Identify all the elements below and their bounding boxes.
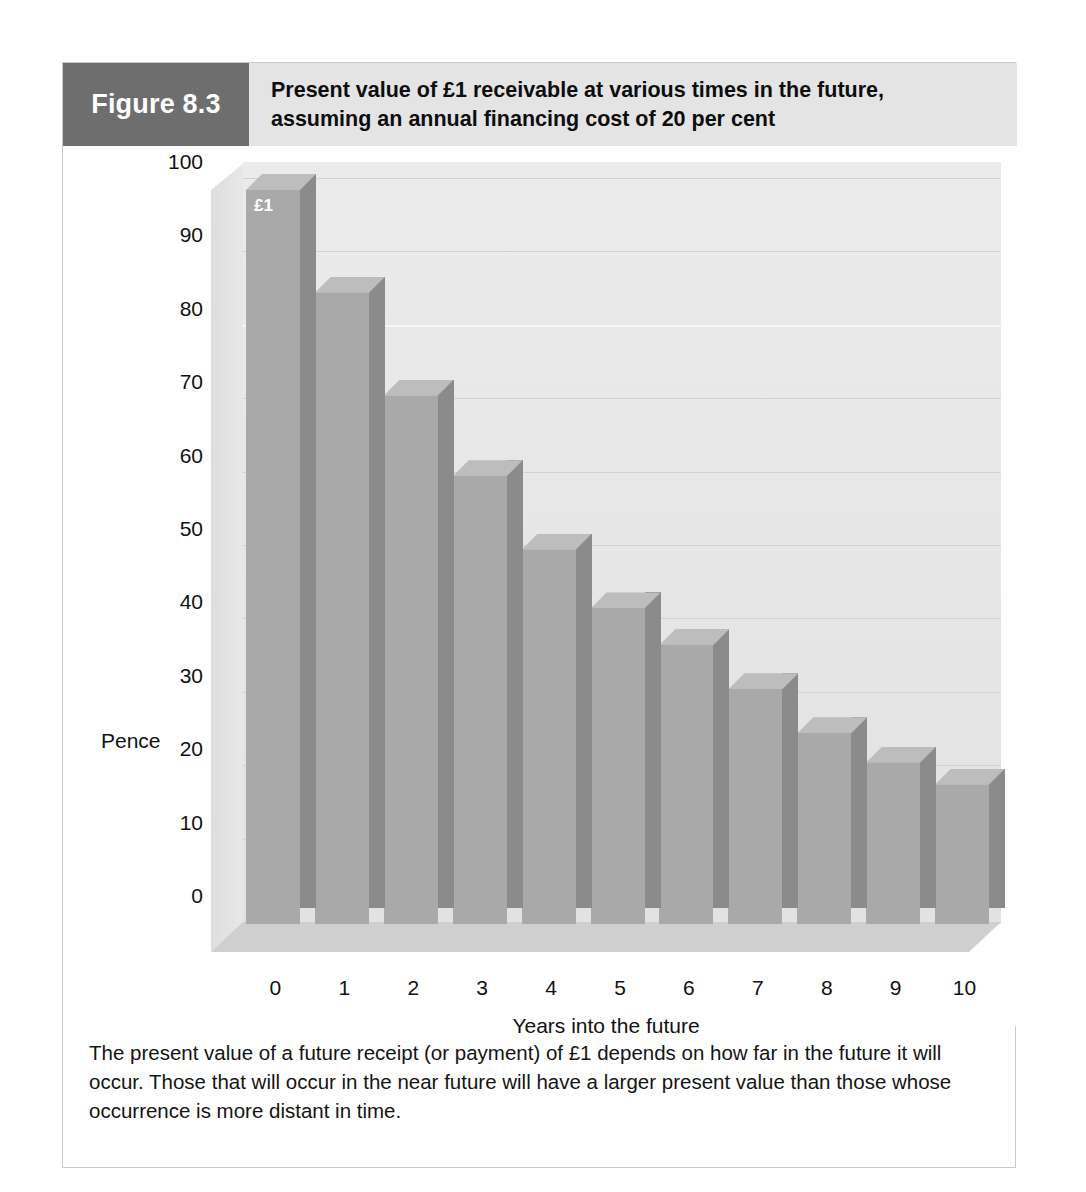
bar-column <box>935 785 989 924</box>
bar-column <box>315 293 369 924</box>
x-axis-tick-labels: 012345678910 <box>211 976 1001 1010</box>
bar-face <box>315 292 369 924</box>
plot-floor <box>211 922 1001 952</box>
bar-side <box>920 747 936 908</box>
x-tick-label: 3 <box>452 976 512 1000</box>
bar-face <box>866 762 920 924</box>
gridline <box>243 178 1001 179</box>
bar-column <box>866 763 920 924</box>
bar-column: £1 <box>246 190 300 924</box>
y-tick-label: 60 <box>111 444 203 468</box>
y-axis-tick-labels: 0102030405060708090100 <box>111 146 203 1026</box>
y-tick-label: 70 <box>111 370 203 394</box>
bar-column <box>659 645 713 924</box>
figure-title-line-2: assuming an annual financing cost of 20 … <box>271 105 1017 134</box>
bar-side <box>369 277 385 908</box>
x-tick-label: 1 <box>314 976 374 1000</box>
y-tick-label: 50 <box>111 517 203 541</box>
x-tick-label: 6 <box>659 976 719 1000</box>
y-tick-label: 90 <box>111 223 203 247</box>
x-tick-label: 7 <box>728 976 788 1000</box>
chart-canvas: Pence 0102030405060708090100 £1 01234567… <box>63 146 1017 1026</box>
figure-number-badge: Figure 8.3 <box>63 63 249 146</box>
bar-column <box>797 733 851 924</box>
y-tick-label: 30 <box>111 664 203 688</box>
y-tick-label: 40 <box>111 590 203 614</box>
x-tick-label: 5 <box>590 976 650 1000</box>
bar-side <box>438 380 454 908</box>
bar-side <box>507 460 523 908</box>
bar-face <box>246 189 300 924</box>
figure-header: Figure 8.3 Present value of £1 receivabl… <box>63 63 1017 146</box>
x-tick-label: 10 <box>935 976 995 1000</box>
x-tick-label: 2 <box>383 976 443 1000</box>
bar-column <box>384 396 438 924</box>
bar-column <box>453 476 507 924</box>
bar-side <box>645 592 661 908</box>
figure-container: Figure 8.3 Present value of £1 receivabl… <box>62 62 1016 1168</box>
y-tick-label: 10 <box>111 811 203 835</box>
bar-face <box>728 688 782 924</box>
bar-face <box>591 607 645 924</box>
bar-face <box>384 395 438 924</box>
bar-face <box>935 784 989 924</box>
y-tick-label: 20 <box>111 737 203 761</box>
y-tick-label: 100 <box>111 150 203 174</box>
bar-side <box>300 174 316 908</box>
plot-left-wall <box>211 162 245 952</box>
bar-value-label: £1 <box>254 196 273 216</box>
x-tick-label: 0 <box>245 976 305 1000</box>
bar-column <box>591 608 645 924</box>
y-tick-label: 0 <box>111 884 203 908</box>
x-tick-label: 9 <box>866 976 926 1000</box>
bar-side <box>782 673 798 908</box>
bar-side <box>576 534 592 908</box>
x-tick-label: 8 <box>797 976 857 1000</box>
bar-face <box>659 644 713 924</box>
x-tick-label: 4 <box>521 976 581 1000</box>
y-tick-label: 80 <box>111 297 203 321</box>
bar-face <box>522 549 576 924</box>
bar-column <box>522 550 576 924</box>
bar-column <box>728 689 782 924</box>
bar-series: £1 <box>243 190 1001 924</box>
bar-side <box>851 717 867 908</box>
figure-title: Present value of £1 receivable at variou… <box>249 63 1017 146</box>
figure-title-line-1: Present value of £1 receivable at variou… <box>271 76 1017 105</box>
plot-area: £1 <box>211 162 1001 952</box>
figure-caption: The present value of a future receipt (o… <box>63 1038 1017 1125</box>
bar-face <box>453 475 507 924</box>
bar-side <box>713 629 729 908</box>
bar-face <box>797 732 851 924</box>
bar-side <box>989 769 1005 908</box>
x-axis-title: Years into the future <box>211 1014 1001 1038</box>
